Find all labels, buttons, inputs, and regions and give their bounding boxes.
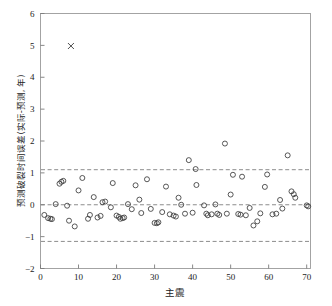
- y-tick-label: 1: [30, 168, 35, 178]
- data-point: [202, 203, 207, 208]
- data-point: [262, 184, 267, 189]
- x-tick-label: 0: [38, 272, 43, 282]
- data-point: [91, 195, 96, 200]
- y-tick-label: 0: [30, 200, 35, 210]
- data-point: [80, 175, 85, 180]
- x-tick-label: 60: [264, 272, 274, 282]
- data-point-outlier: [68, 43, 74, 49]
- data-point: [247, 205, 252, 210]
- data-point: [139, 211, 144, 216]
- data-point: [251, 223, 256, 228]
- data-point: [258, 211, 263, 216]
- data-point: [280, 206, 285, 211]
- data-point: [278, 197, 283, 202]
- y-tick-label: 2: [30, 136, 35, 146]
- data-point: [222, 141, 227, 146]
- data-point: [137, 197, 142, 202]
- y-tick-label: 3: [30, 104, 35, 114]
- y-tick-label: 6: [30, 9, 35, 19]
- y-tick-label: 5: [30, 41, 35, 51]
- y-axis-ticks: −2−10123456: [25, 9, 45, 274]
- data-point: [76, 188, 81, 193]
- data-point: [108, 205, 113, 210]
- data-point: [228, 192, 233, 197]
- data-point: [193, 167, 198, 172]
- plot-canvas: −2−10123456 010203040506070: [0, 0, 332, 306]
- data-point: [183, 211, 188, 216]
- data-point: [186, 158, 191, 163]
- data-point: [129, 207, 134, 212]
- data-point: [230, 172, 235, 177]
- data-point: [133, 183, 138, 188]
- data-point: [160, 210, 165, 215]
- axis-frame: [41, 14, 311, 269]
- data-point: [224, 211, 229, 216]
- y-tick-label: 4: [30, 72, 35, 82]
- x-tick-label: 50: [226, 272, 236, 282]
- y-tick-label: −2: [25, 264, 35, 274]
- data-point: [285, 153, 290, 158]
- y-tick-label: −1: [25, 232, 35, 242]
- data-point: [243, 213, 248, 218]
- data-point: [240, 174, 245, 179]
- data-point: [67, 218, 72, 223]
- data-point: [98, 213, 103, 218]
- x-tick-label: 70: [302, 272, 312, 282]
- data-point: [125, 202, 130, 207]
- data-point: [144, 177, 149, 182]
- x-axis-ticks: 010203040506070: [38, 265, 311, 282]
- data-point: [72, 224, 77, 229]
- x-tick-label: 10: [74, 272, 84, 282]
- data-point: [148, 206, 153, 211]
- data-point: [265, 172, 270, 177]
- data-point: [53, 202, 58, 207]
- data-point: [163, 184, 168, 189]
- data-point: [255, 219, 260, 224]
- data-point: [65, 203, 70, 208]
- scatter-chart-figure: 预测破裂时间误差(实际-预测, 年) 主震 −2−10123456 010203…: [0, 0, 332, 306]
- data-point: [95, 215, 100, 220]
- x-tick-label: 30: [150, 272, 160, 282]
- data-point: [176, 195, 181, 200]
- data-point-group: [42, 43, 311, 229]
- x-tick-label: 40: [188, 272, 198, 282]
- data-point: [110, 181, 115, 186]
- data-point: [190, 210, 195, 215]
- x-tick-label: 20: [112, 272, 122, 282]
- data-point: [194, 182, 199, 187]
